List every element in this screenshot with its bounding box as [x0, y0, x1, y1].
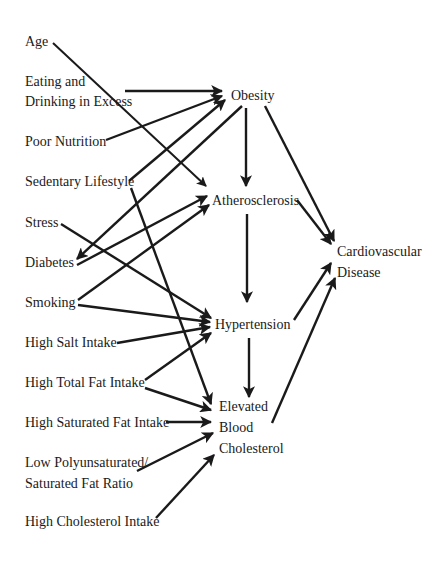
node-elevated-blood-cholesterol: Elevated Blood Cholesterol: [219, 399, 284, 456]
outcome: Cardiovascular Disease: [337, 244, 425, 280]
edge-smoking-hypertension: [78, 305, 210, 322]
edge-totalfat-elevated-chol: [145, 388, 211, 410]
edge-atherosclerosis-cvd: [297, 200, 331, 244]
node-smoking: Smoking: [25, 295, 76, 310]
node-hypertension: Hypertension: [215, 317, 290, 332]
edge-age-atherosclerosis: [53, 43, 206, 186]
edge-obesity-cvd: [265, 106, 334, 241]
edge-highchol-elevated-chol: [156, 455, 214, 518]
node-high-saturated-fat-intake: High Saturated Fat Intake: [25, 415, 169, 430]
node-stress: Stress: [25, 215, 58, 230]
node-high-salt-intake: High Salt Intake: [25, 335, 117, 350]
node-low-polyunsaturated-ratio: Low Polyunsaturated/ Saturated Fat Ratio: [25, 455, 152, 491]
node-obesity: Obesity: [231, 88, 275, 103]
node-eating-drinking: Eating and Drinking in Excess: [25, 74, 132, 109]
edge-stress-hypertension: [61, 224, 211, 318]
edge-hypertension-cvd: [294, 263, 331, 320]
node-diabetes: Diabetes: [25, 255, 74, 270]
node-high-total-fat-intake: High Total Fat Intake: [25, 375, 145, 390]
edge-sedentary-elevated-chol: [131, 188, 211, 404]
intermediate-conditions: Obesity Atherosclerosis Hypertension Ele…: [212, 88, 299, 456]
node-poor-nutrition: Poor Nutrition: [25, 134, 106, 149]
risk-factors: Age Eating and Drinking in Excess Poor N…: [25, 34, 169, 529]
node-cardiovascular-disease: Cardiovascular Disease: [337, 244, 425, 280]
edge-elevated-chol-cvd: [272, 278, 335, 423]
causal-diagram: Age Eating and Drinking in Excess Poor N…: [0, 0, 446, 561]
edge-salt-hypertension: [117, 327, 210, 343]
edges: [53, 43, 335, 518]
node-sedentary-lifestyle: Sedentary Lifestyle: [25, 174, 134, 189]
node-age: Age: [25, 34, 48, 49]
node-high-cholesterol-intake: High Cholesterol Intake: [25, 514, 160, 529]
node-atherosclerosis: Atherosclerosis: [212, 193, 299, 208]
edge-totalfat-hypertension: [145, 333, 211, 380]
